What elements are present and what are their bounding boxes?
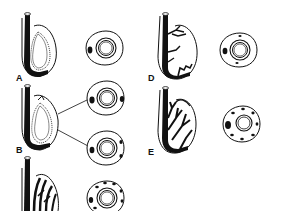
panel-label-e: E bbox=[148, 147, 154, 157]
panel-c-cross-section bbox=[87, 181, 124, 211]
panel-b-cross-section-upper bbox=[87, 81, 124, 115]
panel-d-longitudinal-section bbox=[158, 13, 197, 80]
panel-label-d: D bbox=[148, 73, 155, 83]
panel-c-longitudinal-section bbox=[22, 157, 58, 211]
panel-e-longitudinal-section bbox=[158, 87, 196, 154]
panel-b-longitudinal-section bbox=[22, 85, 88, 151]
ovule-diagram-figure: A B bbox=[0, 0, 281, 211]
panel-label-a: A bbox=[16, 73, 23, 83]
panel-b-cross-section-lower bbox=[87, 131, 124, 165]
panel-d-cross-section bbox=[220, 33, 257, 67]
diagram-canvas: A B bbox=[0, 0, 281, 211]
panel-a-cross-section bbox=[86, 31, 123, 65]
panel-a-longitudinal-section bbox=[22, 13, 56, 78]
panel-e-cross-section bbox=[223, 106, 260, 142]
panel-label-b: B bbox=[16, 145, 23, 155]
